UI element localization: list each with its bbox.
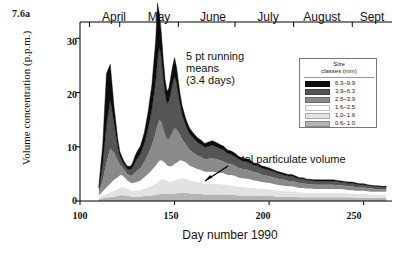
legend-divider xyxy=(304,77,374,78)
legend: Size classes (mm) 6.3–9.9 3.9–6.3 2.5–3.… xyxy=(299,58,377,128)
legend-label-0: 6.3–9.9 xyxy=(335,80,355,86)
figure-7-6a: 7.6a Volume concentration (p.p.m.) Day n… xyxy=(0,0,401,255)
legend-swatch-3 xyxy=(305,105,330,111)
legend-title-line1: Size xyxy=(300,61,378,68)
legend-swatch-4 xyxy=(305,113,330,119)
legend-label-1: 3.9–6.3 xyxy=(335,88,355,94)
legend-swatch-5 xyxy=(305,121,330,127)
legend-label-3: 1.6–2.5 xyxy=(335,104,355,110)
legend-title-line2: classes (mm) xyxy=(300,68,378,75)
legend-swatch-1 xyxy=(305,89,330,95)
legend-label-2: 2.5–3.9 xyxy=(335,96,355,102)
legend-label-5: 0.6–1.0 xyxy=(335,120,355,126)
legend-swatch-2 xyxy=(305,97,330,103)
legend-title: Size classes (mm) xyxy=(300,61,378,75)
legend-swatch-0 xyxy=(305,81,330,87)
legend-label-4: 1.0–1.6 xyxy=(335,112,355,118)
